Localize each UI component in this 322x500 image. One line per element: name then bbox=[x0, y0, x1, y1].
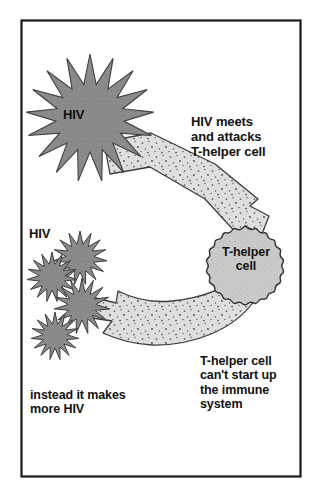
t-helper-cell-label: T-helper cell bbox=[213, 245, 279, 274]
hiv-diagram: HIV HIV T-helper cell HIV meets and atta… bbox=[0, 0, 322, 500]
instead-caption: instead it makes more HIV bbox=[30, 388, 126, 417]
hiv-small-label: HIV bbox=[29, 227, 50, 242]
hiv-large-label: HIV bbox=[63, 108, 84, 123]
attack-caption: HIV meets and attacks T-helper cell bbox=[191, 115, 266, 159]
immune-caption: T-helper cell can't start up the immune … bbox=[200, 354, 277, 411]
